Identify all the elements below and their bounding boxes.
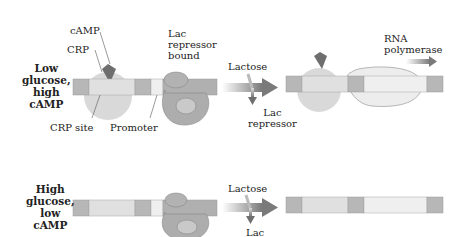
dna-segment [135,200,151,216]
dna-segment [348,76,364,92]
lac-repressor-hole [177,220,197,234]
lac-label-bottom: Lac [246,227,264,237]
lactose-label-bottom: Lactose [228,183,267,194]
condition-line: glucose, [26,195,75,207]
label-line: Lac [248,107,297,118]
dna-segment [286,76,302,92]
crp-site-segment [302,76,348,92]
top-right-dna-complex [286,52,443,112]
bottom-left-dna-complex [73,193,217,237]
rna-polymerase-label: RNA polymerase [384,33,442,55]
condition-line: cAMP [26,219,75,231]
condition-line: high [22,86,71,98]
crp-label: CRP [67,44,89,55]
dna-segment [427,76,443,92]
crp-site-segment [89,200,135,216]
condition-line: low [26,207,75,219]
label-line: polymerase [384,44,442,55]
lac-repressor-label: Lac repressor [248,107,297,129]
dna-segment [348,197,364,213]
dna-segment [427,197,443,213]
label-line: repressor [168,39,217,50]
label-line: bound [168,50,217,61]
dna-segment [135,79,151,95]
polymerase-arrow [406,59,430,64]
lactose-label-top: Lactose [228,61,267,72]
lac-repressor-hole [176,98,196,114]
condition-top: Low glucose, high cAMP [22,62,71,110]
transcribed-segment [364,197,427,213]
dna-segment [286,197,302,213]
crp-site-segment [89,79,135,95]
lactose-arrow-bottom [222,195,278,224]
lac-repressor-top-lobe [165,193,187,207]
promoter-segment [151,200,163,216]
camp-icon [314,52,327,69]
crp-site-label: CRP site [50,122,93,133]
label-line: Lac [168,28,217,39]
condition-line: High [26,183,75,195]
promoter-segment [151,79,163,95]
condition-line: cAMP [22,98,71,110]
condition-line: glucose, [22,74,71,86]
dna-segment [73,200,89,216]
crp-site-segment [302,197,348,213]
label-line: repressor [248,118,297,129]
lac-repressor-bound-label: Lac repressor bound [168,28,217,61]
promoter-label: Promoter [110,122,158,133]
lac-repressor-top-lobe [164,72,188,88]
lactose-arrow-top [222,74,278,105]
camp-label: cAMP [70,25,100,36]
bottom-right-dna [286,197,443,213]
transcribed-segment [364,76,427,92]
dna-segment [73,79,89,95]
condition-bottom: High glucose, low cAMP [26,183,75,231]
condition-line: Low [22,62,71,74]
label-line: RNA [384,33,442,44]
